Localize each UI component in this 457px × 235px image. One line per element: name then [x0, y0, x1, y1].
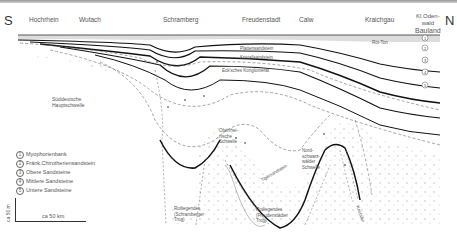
legend-item: 2Fränk.Chirotheriensandstein [16, 159, 95, 168]
cross-section-drawing: 12 34 5 [0, 0, 457, 235]
annotation-line: Schwelle [302, 165, 320, 171]
annotation-line: Trog) [256, 218, 288, 224]
horizontal-scale-bar [15, 221, 86, 222]
legend-number-3: 3 [16, 169, 24, 177]
legend-item: 1Myophorienbank [16, 150, 95, 159]
vertical-scale-bar [15, 198, 16, 222]
label-rotliegendes-schramberger-trog: Rotliegendes (Schramberger Trog) [174, 206, 204, 223]
label-sueddeutsche-hauptschwelle: Süddeutsche Hauptschwelle [52, 97, 85, 108]
annotation-line: Oberrhei- [219, 128, 238, 134]
label-plattensandstein: Plattensandstein [240, 46, 273, 52]
vertical-scale-label: ca 50 m [5, 204, 11, 222]
label-nordschwarzwaelder-schwelle: Nord- schwarz- wälder Schwelle [302, 148, 320, 170]
label-rotliegendes-freudenstaedter-trog: Rotliegendes (Freudenstädter Trog) [256, 207, 288, 224]
legend-label: Fränk.Chirotheriensandstein [26, 160, 95, 166]
legend-label: Untere Sandsteine [26, 187, 72, 193]
horizontal-scale-label: ca 50 km [42, 213, 64, 219]
annotation-line: Rotliegendes [174, 206, 204, 212]
legend-number-4: 4 [16, 178, 24, 186]
legend: 1Myophorienbank 2Fränk.Chirotheriensands… [16, 150, 95, 195]
legend-label: Obere Sandsteine [26, 169, 70, 175]
legend-label: Myophorienbank [26, 151, 67, 157]
label-kristallsandstein: Kristallsandstein [240, 55, 273, 61]
legend-number-2: 2 [16, 160, 24, 168]
label-ecksches-konglomerat: Eck'sches Konglomerat [222, 68, 269, 74]
legend-number-1: 1 [16, 151, 24, 159]
legend-label: Mittlere Sandsteine [26, 178, 73, 184]
annotation-line: Schwelle [219, 139, 238, 145]
legend-item: 5Untere Sandsteine [16, 186, 95, 195]
annotation-line: Hauptschwelle [52, 103, 85, 109]
legend-item: 4Mittlere Sandsteine [16, 177, 95, 186]
annotation-line: Trog) [174, 217, 204, 223]
label-oberrheinische-schwelle: Oberrhei- nische Schwelle [219, 128, 238, 145]
label-roet-ton: Röt-Ton [372, 40, 388, 46]
legend-item: 3Obere Sandsteine [16, 168, 95, 177]
legend-number-5: 5 [16, 187, 24, 195]
